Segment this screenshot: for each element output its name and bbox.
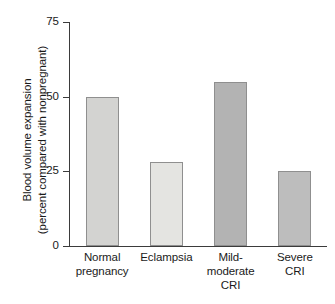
y-tick-label-25: 25 (19, 165, 59, 177)
x-label-line: Severe (263, 250, 327, 264)
y-tick-label-75: 75 (19, 16, 59, 28)
y-tick-mark-50 (63, 97, 69, 98)
y-tick-mark-0 (63, 246, 69, 247)
x-label-mild-moderate-cri: Mild-moderateCRI (199, 250, 263, 292)
x-label-line: CRI (199, 278, 263, 292)
y-axis-title: Blood volume expansion (percent compared… (17, 20, 53, 260)
x-label-severe-cri: SevereCRI (263, 250, 327, 278)
bar-eclampsia (150, 162, 183, 246)
plot-area (70, 22, 327, 246)
x-label-line: CRI (263, 264, 327, 278)
y-tick-label-50: 50 (19, 91, 59, 103)
bar-normal-pregnancy (86, 97, 119, 246)
x-axis-line (69, 246, 327, 247)
x-label-line: Mild- (199, 250, 263, 264)
y-axis-title-line-2: (percent compared with nonpregnant) (35, 46, 50, 234)
bar-severe-cri (278, 171, 311, 246)
x-axis-category-labels: Normalpregnancy Eclampsia Mild-moderateC… (70, 250, 327, 304)
y-tick-mark-75 (63, 22, 69, 23)
x-label-normal-pregnancy: Normalpregnancy (70, 250, 134, 278)
x-label-eclampsia: Eclampsia (134, 250, 198, 264)
bar-mild-moderate-cri (214, 82, 247, 246)
y-tick-label-0: 0 (19, 240, 59, 252)
y-tick-mark-25 (63, 171, 69, 172)
x-label-line: Normal (70, 250, 134, 264)
x-label-line: moderate (199, 264, 263, 278)
x-label-line: Eclampsia (134, 250, 198, 264)
bar-chart: Blood volume expansion (percent compared… (0, 0, 335, 304)
x-label-line: pregnancy (70, 264, 134, 278)
